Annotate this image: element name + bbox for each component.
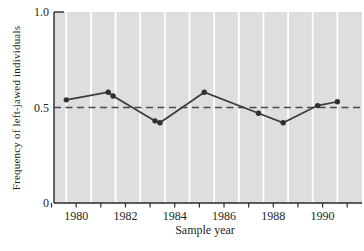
data-point bbox=[64, 97, 69, 102]
data-point bbox=[157, 120, 162, 125]
y-tick-label: 1.0 bbox=[34, 5, 49, 19]
x-tick-label: 1982 bbox=[113, 209, 137, 223]
data-point bbox=[335, 99, 340, 104]
x-tick-label: 1990 bbox=[311, 209, 335, 223]
y-tick-label: 0 bbox=[43, 196, 49, 210]
x-axis-title: Sample year bbox=[175, 223, 235, 237]
x-tick-labels: 198019821984198619881990 bbox=[64, 209, 334, 223]
data-point bbox=[280, 120, 285, 125]
x-tick-label: 1988 bbox=[261, 209, 285, 223]
data-point bbox=[202, 90, 207, 95]
x-tick-label: 1980 bbox=[64, 209, 88, 223]
y-tick-label: 0.5 bbox=[34, 101, 49, 115]
chart-canvas: 198019821984198619881990 00.51.0 Sample … bbox=[0, 0, 364, 251]
data-point bbox=[256, 111, 261, 116]
y-tick-labels: 00.51.0 bbox=[34, 5, 49, 210]
x-tick-label: 1984 bbox=[163, 209, 187, 223]
chart-figure: 198019821984198619881990 00.51.0 Sample … bbox=[0, 0, 364, 251]
data-point bbox=[152, 118, 157, 123]
data-point bbox=[315, 103, 320, 108]
data-point bbox=[110, 93, 115, 98]
data-point bbox=[106, 90, 111, 95]
x-tick-label: 1986 bbox=[212, 209, 236, 223]
y-axis-title: Frequency of left-jawed individuals bbox=[10, 26, 22, 190]
